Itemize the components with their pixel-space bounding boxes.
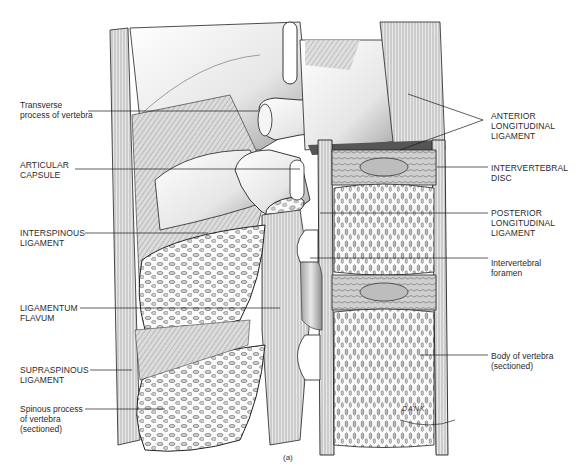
label-articular-capsule: ARTICULAR CAPSULE — [20, 160, 69, 180]
label-supraspinous-ligament: SUPRASPINOUS LIGAMENT — [20, 365, 89, 385]
label-body-of-vertebra: Body of vertebra (sectioned) — [491, 351, 553, 371]
label-anterior-longitudinal-ligament: ANTERIOR LONGITUDINAL LIGAMENT — [491, 111, 555, 141]
label-transverse-process: Transverse process of vertebra — [20, 100, 93, 120]
figure-caption: (a) — [283, 453, 293, 462]
label-intervertebral-foramen: Intervertebral foramen — [491, 258, 541, 278]
label-interspinous-ligament: INTERSPINOUS LIGAMENT — [20, 228, 85, 248]
label-ligamentum-flavum: LIGAMENTUM FLAVUM — [20, 303, 78, 323]
label-intervertebral-disc: INTERVERTEBRAL DISC — [491, 163, 568, 183]
vertebral-body-section-upper — [334, 184, 434, 275]
artist-signature: DANK — [402, 405, 425, 412]
vertebral-body-section-lower — [334, 309, 434, 448]
label-spinous-process: Spinous process of vertebra (sectioned) — [20, 404, 83, 434]
supraspinous-ligament-shape — [110, 28, 140, 445]
label-posterior-longitudinal-ligament: POSTERIOR LONGITUDINAL LIGAMENT — [491, 208, 555, 238]
